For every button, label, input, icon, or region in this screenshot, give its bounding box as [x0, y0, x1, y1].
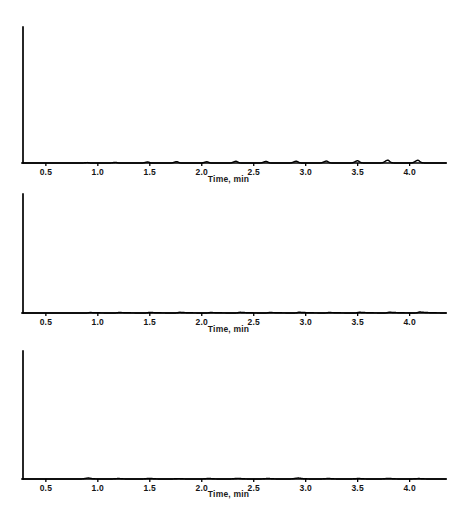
- x-axis-label-bottom: Time, min: [0, 489, 457, 499]
- chromatogram-figure: 0.51.01.52.02.53.03.54.0 Time, min 0.51.…: [0, 0, 457, 521]
- chromatogram-plot-bottom: 0.51.01.52.02.53.03.54.0: [0, 348, 457, 508]
- chromatogram-panel-middle: 0.51.01.52.02.53.03.54.0 Time, min: [0, 191, 457, 343]
- chromatogram-plot-middle: 0.51.01.52.02.53.03.54.0: [0, 191, 457, 343]
- chromatogram-panel-bottom: 0.51.01.52.02.53.03.54.0 Time, min: [0, 348, 457, 508]
- chromatogram-panel-top: 0.51.01.52.02.53.03.54.0 Time, min: [0, 18, 457, 193]
- chromatogram-trace: [23, 312, 446, 313]
- x-axis-label-middle: Time, min: [0, 324, 457, 334]
- x-axis-label-top: Time, min: [0, 174, 457, 184]
- chromatogram-trace: [23, 478, 446, 479]
- chromatogram-plot-top: 0.51.01.52.02.53.03.54.0: [0, 18, 457, 193]
